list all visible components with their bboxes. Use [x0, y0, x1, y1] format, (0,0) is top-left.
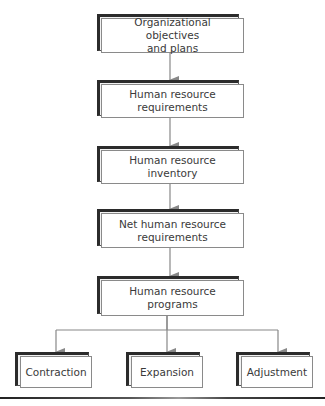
- box-face: Contraction: [20, 356, 92, 388]
- node-label-line2: and plans: [147, 42, 198, 54]
- box-face: Human resourcerequirements: [101, 84, 244, 118]
- node-label-line1: Net human resource: [119, 218, 226, 230]
- node-label: Adjustment: [247, 366, 307, 379]
- node-label-line2: requirements: [137, 101, 207, 113]
- node-label-line1: Human resource: [129, 154, 216, 166]
- box-face: Human resourceprograms: [101, 280, 244, 316]
- box-face: Human resourceinventory: [101, 150, 244, 184]
- box-face: Organizational objectivesand plans: [101, 18, 244, 53]
- box-face: Adjustment: [241, 356, 313, 388]
- bottom-rule: [0, 397, 325, 399]
- node-label-line1: Human resource: [129, 88, 216, 100]
- node-label: Contraction: [25, 366, 86, 379]
- node-label-line2: requirements: [137, 231, 207, 243]
- node-label-line1: Human resource: [129, 285, 216, 297]
- node-label-line2: programs: [147, 298, 197, 310]
- box-face: Net human resourcerequirements: [101, 213, 244, 248]
- node-label-line1: Organizational objectives: [134, 16, 210, 41]
- box-face: Expansion: [131, 356, 203, 388]
- node-label-line2: inventory: [148, 167, 198, 179]
- node-label: Expansion: [140, 366, 194, 379]
- connectors: [0, 0, 325, 406]
